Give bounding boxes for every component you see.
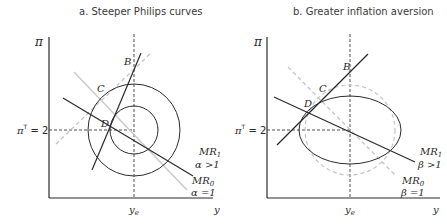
panel-a-mr0-line xyxy=(74,72,187,190)
panel-a-mr1-line xyxy=(63,98,193,176)
panel-a-target-label: πT = 2 xyxy=(17,124,48,136)
panel-b-ye-sub: e xyxy=(351,209,355,217)
panel-b-mr0-line xyxy=(288,67,396,176)
panel-a-target-pi: π xyxy=(17,125,24,136)
panel-a-y-axis-label: π xyxy=(35,36,43,48)
panel-a-x-axis-label: y xyxy=(214,205,220,215)
panel-a-mr1-label: MR1 xyxy=(199,147,221,159)
panel-a-mr0-name: MR xyxy=(192,175,210,186)
panel-a-point-b: B xyxy=(124,57,131,67)
panel-b-mr1-label: MR1 xyxy=(420,147,442,159)
panel-b-x-axis-label: y xyxy=(433,205,439,215)
panel-b-point-c: C xyxy=(319,84,327,94)
panel-a-point-d: D xyxy=(101,119,109,129)
panel-b-ye-label: ye xyxy=(345,205,355,217)
panel-a-mr1-param: α >1 xyxy=(195,160,220,170)
panel-b-mr1-name: MR xyxy=(420,146,438,157)
panel-a-mr1-name: MR xyxy=(199,146,217,157)
panel-a-mr0-param: α =1 xyxy=(191,188,216,198)
panel-a-ye-label: ye xyxy=(129,205,139,217)
panel-b xyxy=(267,34,440,198)
panel-b-target-pi: π xyxy=(235,125,242,136)
panel-b-target-label: πT = 2 xyxy=(235,124,266,136)
panel-b-point-b: B xyxy=(343,62,350,72)
panel-b-mr1-line xyxy=(274,97,415,162)
panel-b-mr0-name: MR xyxy=(402,175,420,186)
panel-b-target-value: = 2 xyxy=(245,125,266,136)
panel-a-mr1-sub: 1 xyxy=(217,151,221,159)
panel-a-point-c: C xyxy=(97,84,105,94)
panel-a-target-value: = 2 xyxy=(27,125,48,136)
panel-b-mr1-sub: 1 xyxy=(438,151,442,159)
panel-a-ye-sub: e xyxy=(135,209,139,217)
panel-b-point-d: D xyxy=(304,99,312,109)
panel-b-mr0-param: β =1 xyxy=(401,188,425,198)
panel-b-mr1-param: β >1 xyxy=(418,160,442,170)
panel-b-y-axis-label: π xyxy=(254,36,262,48)
panel-b-pc-line xyxy=(277,54,368,145)
diagram-canvas xyxy=(0,0,447,224)
